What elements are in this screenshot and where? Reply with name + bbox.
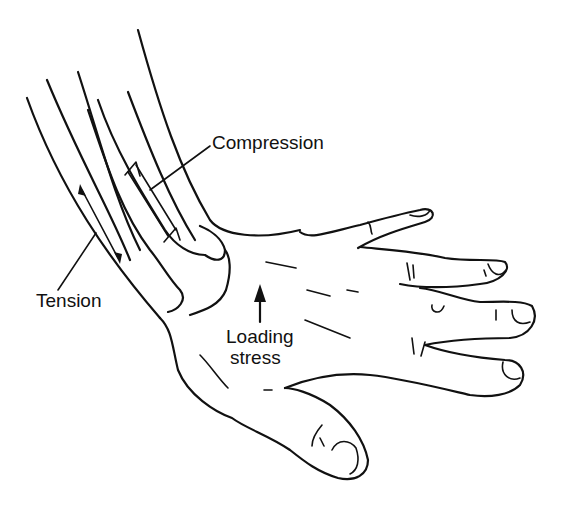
fingernails [332, 210, 530, 474]
tension-leader [58, 233, 96, 290]
compression-label: Compression [212, 132, 324, 153]
loading-stress-line1: Loading [226, 326, 294, 347]
arrow-up-icon [254, 284, 266, 322]
loading-stress-label: Loading stress [226, 326, 294, 368]
loading-stress-line2: stress [226, 347, 294, 368]
hand-outline [160, 209, 535, 479]
hand-wrist-diagram [0, 0, 569, 515]
tension-label: Tension [36, 290, 102, 311]
radius-bone [88, 100, 225, 312]
